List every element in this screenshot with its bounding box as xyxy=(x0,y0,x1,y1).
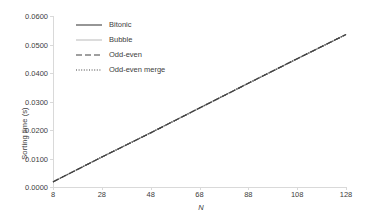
x-axis-tick-label: 28 xyxy=(98,190,106,199)
y-axis-tick-label: 0.0500 xyxy=(6,40,48,49)
legend-item-label: Bubble xyxy=(109,35,132,45)
chart-legend: BitonicBubbleOdd-evenOdd-even merge xyxy=(76,17,196,77)
y-axis-tick-mark xyxy=(50,73,53,74)
legend-swatch-icon xyxy=(76,65,102,75)
x-axis-tick-label: 108 xyxy=(291,190,304,199)
y-axis-tick-mark xyxy=(50,16,53,17)
legend-swatch-icon xyxy=(76,50,102,60)
y-axis-tick-label: 0.0400 xyxy=(6,69,48,78)
x-axis-tick-label: 88 xyxy=(244,190,252,199)
legend-item: Odd-even xyxy=(76,47,196,62)
x-axis-tick-label: 128 xyxy=(340,190,353,199)
x-axis-tick-label: 68 xyxy=(195,190,203,199)
y-axis-tick-mark xyxy=(50,45,53,46)
legend-swatch-icon xyxy=(76,35,102,45)
x-axis-title: N xyxy=(0,203,374,212)
x-axis-tick-label: 8 xyxy=(51,190,55,199)
y-axis-tick-mark xyxy=(50,159,53,160)
legend-swatch-icon xyxy=(76,20,102,30)
x-axis-tick-label: 48 xyxy=(146,190,154,199)
y-axis-tick-label: 0.0100 xyxy=(6,154,48,163)
y-axis-tick-label: 0.0200 xyxy=(6,126,48,135)
legend-item: Bitonic xyxy=(76,17,196,32)
y-axis-tick-mark xyxy=(50,130,53,131)
legend-item-label: Odd-even xyxy=(109,50,142,60)
x-axis-tick-labels: 828486888108128 xyxy=(0,190,374,202)
line-chart: Sorting time (s) 0.00000.01000.02000.030… xyxy=(0,0,374,223)
y-axis-tick-label: 0.0300 xyxy=(6,97,48,106)
x-axis-title-text: N xyxy=(198,203,203,212)
legend-item-label: Bitonic xyxy=(109,20,132,30)
legend-item: Bubble xyxy=(76,32,196,47)
y-axis-tick-label: 0.0600 xyxy=(6,12,48,21)
y-axis-tick-mark xyxy=(50,102,53,103)
legend-item-label: Odd-even merge xyxy=(109,65,165,75)
legend-item: Odd-even merge xyxy=(76,62,196,77)
